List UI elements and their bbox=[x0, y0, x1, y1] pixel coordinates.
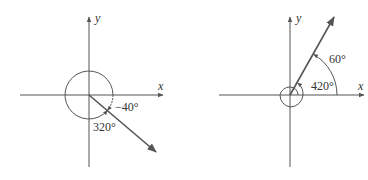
right-60-label: 60° bbox=[329, 52, 346, 66]
left-y-label: y bbox=[94, 11, 101, 25]
right-x-label: x bbox=[357, 79, 364, 93]
right-420-label: 420° bbox=[311, 79, 334, 93]
left-x-label: x bbox=[157, 79, 164, 93]
left-figure: x y −40° 320° bbox=[20, 11, 164, 167]
right-y-label: y bbox=[295, 11, 302, 25]
left-neg40-label: −40° bbox=[115, 100, 139, 114]
diagram-canvas: x y −40° 320° x y 60° 420° bbox=[0, 0, 368, 180]
left-320-label: 320° bbox=[93, 120, 116, 134]
left-neg40-arc bbox=[107, 95, 113, 110]
right-figure: x y 60° 420° bbox=[219, 11, 364, 167]
